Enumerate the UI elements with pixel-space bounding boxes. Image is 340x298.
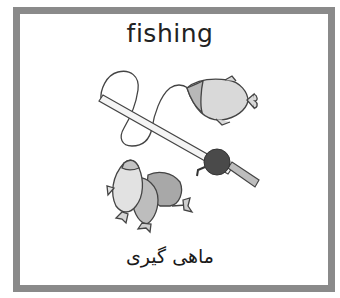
hooked-fish-icon: [187, 76, 257, 125]
fish-pile-icon: [107, 160, 192, 232]
card-caption-persian: ماهی گیری: [0, 245, 340, 267]
